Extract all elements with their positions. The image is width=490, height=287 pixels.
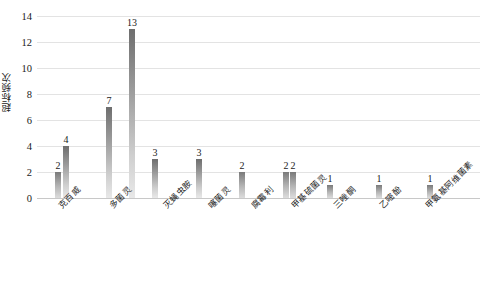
y-axis-tick-label: 8 [27,89,32,100]
bar [152,159,158,198]
y-axis-tick-label: 12 [22,37,33,48]
bar-chart: 超标频次 024681012142471333222111 克百威多菌灵灭蝇虫胺… [0,0,490,287]
y-axis-tick-label: 0 [27,193,32,204]
bar-value-label: 13 [127,17,137,28]
gridline: 6 [37,120,480,121]
gridline: 2 [37,172,480,173]
plot-area: 024681012142471333222111 [37,16,480,198]
bar-value-label: 2 [284,160,289,171]
gridline: 8 [37,94,480,95]
y-axis-tick-label: 6 [27,115,32,126]
bar-value-label: 4 [64,134,69,145]
bar [283,172,289,198]
bar-value-label: 2 [291,160,296,171]
bar [239,172,245,198]
bar-value-label: 7 [107,95,112,106]
bar-value-label: 3 [197,147,202,158]
bar-value-label: 1 [428,173,433,184]
bar [55,172,61,198]
gridline: 4 [37,146,480,147]
bar [129,29,135,198]
gridline: 14 [37,16,480,17]
bar-value-label: 2 [56,160,61,171]
y-axis-tick-label: 2 [27,167,32,178]
y-axis-tick-label: 10 [22,63,33,74]
bar [327,185,333,198]
bar [196,159,202,198]
bar-value-label: 1 [377,173,382,184]
y-axis-tick-label: 4 [27,141,32,152]
gridline: 10 [37,68,480,69]
y-axis-tick-label: 14 [22,11,33,22]
y-axis-title: 超标频次 [2,72,16,112]
bar [106,107,112,198]
bar-value-label: 2 [240,160,245,171]
bar-value-label: 3 [153,147,158,158]
gridline: 12 [37,42,480,43]
